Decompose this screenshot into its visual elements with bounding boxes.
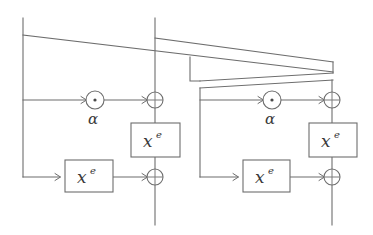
pow-box-left-lower-exponent: e	[90, 165, 96, 176]
alpha-multiplier-right-dot	[270, 98, 273, 101]
feed-wire-mid-to-right	[155, 38, 333, 62]
pow-box-left-lower	[65, 160, 113, 192]
circuit-canvas: x e x e α	[0, 0, 373, 235]
pow-box-right-lower	[243, 160, 290, 192]
alpha-multiplier-left-dot	[93, 98, 96, 101]
pow-box-right-upper	[309, 123, 357, 157]
feed-step-connector	[190, 57, 200, 81]
pow-box-left-upper-exponent: e	[156, 129, 162, 140]
pow-box-left-upper-base: x	[143, 131, 153, 151]
pow-box-left-lower-base: x	[77, 167, 87, 187]
alpha-label-right: α	[265, 110, 275, 128]
circuit-diagram: x e x e α	[0, 0, 373, 235]
pow-box-right-upper-base: x	[321, 131, 331, 151]
feed-wire-right-block-return	[200, 73, 333, 81]
pow-box-right-upper-exponent: e	[334, 129, 340, 140]
pow-box-right-lower-exponent: e	[268, 165, 274, 176]
feed-wire-right-entry	[200, 80, 333, 88]
pow-box-right-lower-base: x	[255, 167, 265, 187]
alpha-label-left: α	[88, 110, 98, 128]
